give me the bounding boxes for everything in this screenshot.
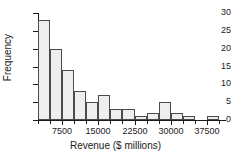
histogram-bar [183, 116, 195, 120]
y-axis-title: Frequency [2, 20, 13, 96]
histogram-bar [171, 113, 183, 120]
x-tick-label: 22500 [115, 126, 155, 136]
x-tick-mark-minor [183, 121, 184, 124]
x-tick-mark-minor [50, 121, 51, 124]
histogram-bar [38, 20, 50, 120]
x-tick-mark-minor [195, 121, 196, 124]
x-tick-mark-minor [122, 121, 123, 124]
histogram-bar [98, 95, 110, 120]
histogram-bar [86, 102, 98, 120]
x-tick-label: 30000 [151, 126, 191, 136]
x-tick-mark [98, 121, 99, 125]
histogram-bar [207, 116, 219, 120]
x-tick-mark [135, 121, 136, 125]
histogram-figure: Frequency 051015202530 75001500022500300… [0, 0, 231, 160]
x-tick-mark-minor [147, 121, 148, 124]
x-axis-line [38, 120, 226, 121]
histogram-bar [62, 70, 74, 120]
x-tick-label: 7500 [42, 126, 82, 136]
x-tick-mark-minor [219, 121, 220, 124]
histogram-bar [74, 91, 86, 120]
x-tick-label: 15000 [78, 126, 118, 136]
x-tick-mark-minor [159, 121, 160, 124]
x-tick-mark [171, 121, 172, 125]
histogram-bar [147, 113, 159, 120]
x-tick-mark [62, 121, 63, 125]
histogram-bar [122, 109, 134, 120]
plot-area [38, 13, 225, 120]
x-tick-mark [207, 121, 208, 125]
x-tick-label: 37500 [187, 126, 227, 136]
histogram-bar [110, 109, 122, 120]
histogram-bar [159, 102, 171, 120]
x-tick-mark-minor [86, 121, 87, 124]
x-tick-mark-minor [38, 121, 39, 124]
x-tick-mark-minor [110, 121, 111, 124]
histogram-bar [135, 116, 147, 120]
x-axis-title: Revenue ($ millions) [0, 140, 231, 151]
histogram-bar [50, 49, 62, 120]
x-tick-mark-minor [74, 121, 75, 124]
